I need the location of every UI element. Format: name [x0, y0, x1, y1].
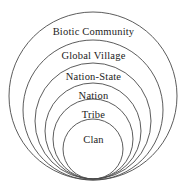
- ring-label-tribe: Tribe: [0, 110, 187, 121]
- nested-circles-diagram: Biotic Community Global Village Nation-S…: [0, 0, 187, 193]
- ring-label-global-village: Global Village: [0, 51, 187, 62]
- ring-label-nation: Nation: [0, 91, 187, 102]
- ring-label-clan: Clan: [0, 135, 187, 146]
- ring-label-biotic-community: Biotic Community: [0, 27, 187, 38]
- ring-label-nation-state: Nation-State: [0, 72, 187, 83]
- ring-circle-clan: [63, 119, 123, 179]
